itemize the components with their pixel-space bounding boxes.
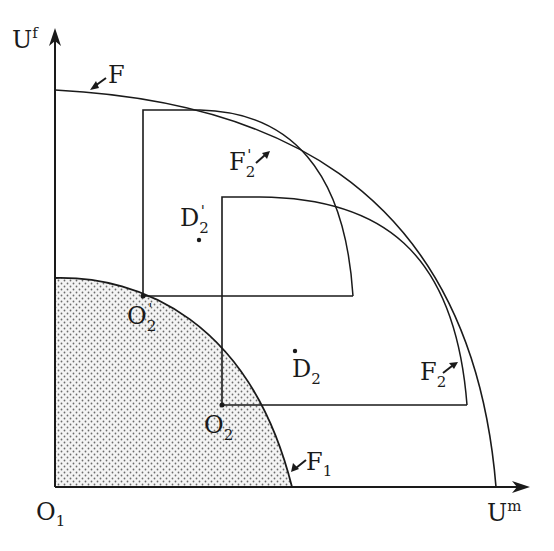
d2prime-label: D2' — [180, 202, 209, 237]
o2-point — [220, 403, 225, 408]
f-label: F — [108, 61, 125, 89]
d2prime-point — [197, 238, 201, 242]
y-axis-label: Uf — [12, 24, 39, 54]
origin-o1-label: O1 — [36, 498, 65, 530]
f1-pointer-arrow-icon — [291, 460, 306, 472]
f2-label: F2 — [420, 358, 446, 391]
f-pointer-arrow-icon — [90, 78, 106, 90]
d2-point — [293, 349, 297, 353]
o2prime-point — [141, 294, 146, 299]
f2prime-label: F2' — [229, 146, 255, 181]
f2-pointer-arrow-icon — [443, 362, 458, 373]
o2prime-label: O2' — [127, 300, 156, 335]
f2prime-pointer-arrow-icon — [256, 151, 270, 163]
x-axis-label: Um — [487, 497, 521, 527]
d2-label: D2 — [292, 355, 321, 388]
f1-label: F1 — [306, 448, 332, 480]
frontier-diagram: Uf Um O1 F F1 F2' F2 O2' O2 D2' D2 — [0, 0, 554, 551]
